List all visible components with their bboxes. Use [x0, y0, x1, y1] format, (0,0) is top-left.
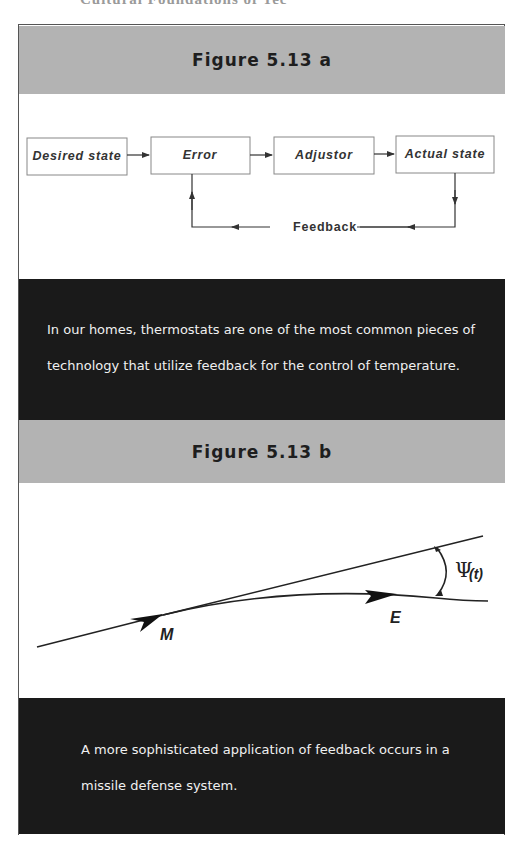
figure-b-title-band: Figure 5.13 b: [19, 420, 505, 483]
cutoff-running-header: Cultural Foundations of Tec: [80, 0, 287, 8]
figure-a-caption-band: In our homes, thermostats are one of the…: [19, 279, 505, 420]
figure-b-title: Figure 5.13 b: [192, 442, 333, 462]
figure-a-diagram-area: [19, 94, 505, 279]
figure-a-caption-line-1: In our homes, thermostats are one of the…: [47, 312, 475, 348]
figure-b-diagram-area: [19, 483, 505, 698]
figure-a-caption-line-2: technology that utilize feedback for the…: [47, 348, 460, 384]
figure-b-caption-band: A more sophisticated application of feed…: [19, 698, 505, 834]
figure-b-caption-line-1: A more sophisticated application of feed…: [81, 732, 450, 768]
figure-a-title-band: Figure 5.13 a: [19, 26, 505, 94]
figure-a-title: Figure 5.13 a: [192, 50, 332, 70]
figure-b-caption-line-2: missile defense system.: [81, 768, 237, 804]
